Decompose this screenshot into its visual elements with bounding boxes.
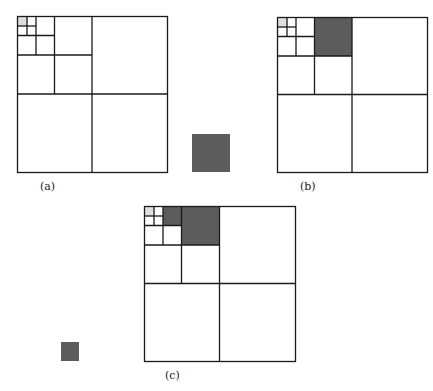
panel-a	[17, 16, 168, 173]
light-cell	[145, 207, 155, 217]
large-dark-block	[192, 134, 230, 172]
panel-c	[144, 206, 296, 362]
dark-cell-small	[163, 207, 182, 226]
light-cell	[18, 17, 28, 27]
caption-b: (b)	[300, 180, 316, 193]
caption-c: (c)	[165, 369, 180, 382]
panel-b	[277, 17, 428, 173]
small-dark-block	[61, 342, 79, 361]
quadtree-a	[17, 16, 168, 173]
caption-a: (a)	[40, 180, 55, 193]
dark-cell-large	[182, 207, 220, 246]
dark-cell	[315, 18, 353, 57]
quadtree-c	[144, 206, 296, 362]
light-cell	[278, 18, 288, 28]
quadtree-b	[277, 17, 428, 173]
